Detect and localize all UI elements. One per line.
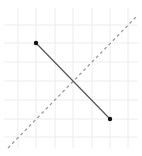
geometry-diagram	[0, 0, 142, 156]
endpoint-a-point	[34, 41, 38, 45]
dashed-line	[8, 17, 136, 148]
grid	[4, 8, 138, 148]
diagram-svg	[0, 0, 142, 156]
endpoint-b-point	[108, 117, 112, 121]
